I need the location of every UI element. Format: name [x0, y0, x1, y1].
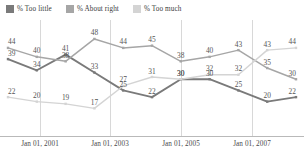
data-point: [266, 67, 268, 69]
data-point: [122, 89, 124, 91]
data-label: 22: [8, 87, 16, 96]
data-point: [151, 76, 153, 78]
data-point: [266, 100, 268, 102]
legend-item-about-right[interactable]: % About right: [66, 5, 119, 13]
data-label: 31: [148, 67, 156, 76]
legend-item-too-much[interactable]: % Too much: [133, 5, 182, 13]
data-label: 30: [289, 69, 297, 78]
plot-area: 3934413325223030252022444038484445384043…: [0, 20, 304, 137]
data-label: 43: [264, 40, 272, 49]
data-label: 40: [206, 46, 214, 55]
data-label: 43: [235, 40, 243, 49]
data-point: [7, 96, 9, 98]
data-label: 44: [120, 37, 128, 46]
data-point: [266, 49, 268, 51]
legend-swatch-too-little: [6, 5, 14, 13]
data-label: 32: [206, 64, 214, 73]
data-label: 39: [8, 49, 16, 58]
data-point: [36, 100, 38, 102]
x-tick-label: Jan 01, 2005: [162, 140, 200, 148]
line-chart: % Too little % About right % Too much 39…: [0, 0, 304, 163]
data-point: [151, 96, 153, 98]
data-label: 48: [91, 28, 99, 37]
data-point: [93, 38, 95, 40]
data-point: [237, 74, 239, 76]
data-point: [208, 78, 210, 80]
data-point: [36, 56, 38, 58]
data-point: [208, 56, 210, 58]
data-point: [295, 47, 297, 49]
data-label: 20: [264, 91, 272, 100]
data-point: [64, 103, 66, 105]
data-point: [180, 60, 182, 62]
data-label: 32: [235, 64, 243, 73]
data-label: 38: [177, 51, 185, 60]
data-point: [237, 89, 239, 91]
data-point: [93, 107, 95, 109]
data-label: 40: [33, 46, 41, 55]
legend-label-too-much: % Too much: [144, 5, 182, 13]
data-label: 25: [235, 80, 243, 89]
data-label: 27: [120, 75, 128, 84]
data-label: 17: [91, 98, 99, 107]
data-label: 45: [148, 35, 156, 44]
data-point: [36, 69, 38, 71]
data-label: 38: [62, 51, 70, 60]
data-label: 44: [8, 37, 16, 46]
data-label: 19: [62, 93, 70, 102]
data-label: 44: [289, 37, 297, 46]
data-point: [295, 96, 297, 98]
data-point: [295, 78, 297, 80]
data-label: 20: [33, 91, 41, 100]
data-label: 22: [148, 87, 156, 96]
data-label: 22: [289, 87, 297, 96]
legend-item-too-little[interactable]: % Too little: [6, 5, 52, 13]
x-axis: Jan 01, 2001 Jan 01, 2003 Jan 01, 2005 J…: [0, 140, 304, 160]
data-label: 33: [91, 62, 99, 71]
data-label: 35: [264, 58, 272, 67]
x-tick-label: Jan 01, 2007: [233, 140, 271, 148]
x-tick-label: Jan 01, 2003: [91, 140, 129, 148]
legend-swatch-too-much: [133, 5, 141, 13]
data-point: [7, 58, 9, 60]
data-point: [180, 78, 182, 80]
data-point: [151, 44, 153, 46]
data-point: [93, 71, 95, 73]
plot-svg: 3934413325223030252022444038484445384043…: [0, 20, 304, 137]
chart-legend: % Too little % About right % Too much: [6, 3, 181, 15]
data-labels: 3934413325223030252022444038484445384043…: [8, 28, 296, 106]
data-point: [64, 60, 66, 62]
x-tick-label: Jan 01, 2001: [21, 140, 59, 148]
legend-swatch-about-right: [66, 5, 74, 13]
legend-label-about-right: % About right: [77, 5, 119, 13]
data-label: 34: [33, 60, 41, 69]
legend-label-too-little: % Too little: [17, 5, 52, 13]
data-point: [122, 47, 124, 49]
data-point: [237, 49, 239, 51]
data-label: 30: [177, 69, 185, 78]
